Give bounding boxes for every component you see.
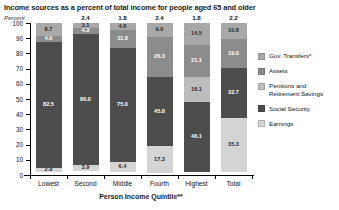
x-axis-tick: [178, 175, 179, 179]
bar-segment[interactable]: 21.1: [184, 45, 210, 77]
bar-stack[interactable]: 10.819.032.735.3: [221, 23, 247, 175]
bar-segment[interactable]: 17.3: [147, 146, 173, 172]
x-axis-tick: [67, 175, 68, 179]
bar-segment[interactable]: 2.9: [36, 168, 62, 172]
bar-segment[interactable]: 82.5: [36, 42, 62, 167]
bar-top-annotation: 1.8: [103, 14, 143, 21]
bar-segment[interactable]: 3.9: [73, 165, 99, 171]
y-axis-tick-label: 30: [1, 126, 23, 133]
y-axis-tick-label: 60: [1, 80, 23, 87]
bar-segment[interactable]: 9.0: [147, 23, 173, 37]
bar-top-annotation: 2.4: [66, 14, 106, 21]
bar-segment[interactable]: 75.0: [110, 48, 136, 162]
bar-segment[interactable]: 32.7: [221, 68, 247, 118]
legend-label: Social Security: [269, 105, 310, 113]
chart-title: Income sources as a percent of total inc…: [4, 3, 256, 12]
bar-top-annotation: 2.4: [140, 14, 180, 21]
bar-segment[interactable]: 19.0: [221, 39, 247, 68]
bar-segment[interactable]: 86.0: [73, 34, 99, 165]
legend-swatch-icon: [258, 120, 265, 127]
bar-segment[interactable]: 14.5: [184, 23, 210, 45]
legend-item[interactable]: Assets: [258, 67, 338, 75]
legend-item[interactable]: Earnings: [258, 120, 338, 128]
bar-stack[interactable]: 3.14.386.03.9: [73, 23, 99, 175]
legend-label: Pensions andRetirement Savings: [269, 82, 323, 97]
x-axis-tick: [104, 175, 105, 179]
y-axis-tick-label: 50: [1, 96, 23, 103]
bar-segment[interactable]: 26.3: [147, 37, 173, 77]
y-axis-tick-label: 90: [1, 35, 23, 42]
legend-item[interactable]: Social Security: [258, 105, 338, 113]
y-axis-tick-label: 40: [1, 111, 23, 118]
bar-segment[interactable]: 16.1: [184, 77, 210, 101]
legend-swatch-icon: [258, 83, 265, 90]
x-axis-tick: [252, 175, 253, 179]
y-axis-tick-label: 0: [1, 172, 23, 179]
bar-segment[interactable]: 46.1: [184, 102, 210, 172]
bar-stack[interactable]: 8.74.082.52.9: [36, 23, 62, 175]
y-axis-tick-label: 80: [1, 50, 23, 57]
chart-legend: Gov. Transfers*AssetsPensions andRetirem…: [258, 52, 338, 135]
y-axis-tick-label: 70: [1, 65, 23, 72]
legend-label: Gov. Transfers*: [269, 52, 312, 60]
x-axis-title: Person Income Quintile**: [30, 193, 252, 200]
x-axis-tick: [215, 175, 216, 179]
bar-segment[interactable]: 10.8: [221, 23, 247, 39]
bar-segment[interactable]: 11.8: [110, 30, 136, 48]
legend-label: Assets: [269, 67, 288, 75]
y-axis-tick-label: 100: [1, 20, 23, 27]
bar-top-annotation: 2.2: [214, 14, 254, 21]
legend-label: Earnings: [269, 120, 293, 128]
bar-segment[interactable]: 8.7: [36, 23, 62, 36]
bar-stack[interactable]: 4.611.875.06.4: [110, 23, 136, 175]
y-axis-tick-label: 10: [1, 156, 23, 163]
bar-top-annotation: 1.8: [177, 14, 217, 21]
x-axis-line: [24, 175, 254, 176]
chart-container: Income sources as a percent of total inc…: [0, 0, 339, 210]
y-axis-tick-label: 20: [1, 141, 23, 148]
x-axis-category-label: Total: [210, 180, 258, 187]
bar-stack[interactable]: 9.026.345.817.3: [147, 23, 173, 175]
bar-segment[interactable]: 45.8: [147, 77, 173, 147]
x-axis-tick: [30, 175, 31, 179]
bar-segment[interactable]: 6.4: [110, 162, 136, 172]
bar-stack[interactable]: 14.521.116.146.1: [184, 23, 210, 175]
bar-segment[interactable]: 35.3: [221, 118, 247, 172]
plot-area: 8.74.082.52.93.14.386.03.94.611.875.06.4…: [30, 23, 252, 175]
legend-swatch-icon: [258, 53, 265, 60]
legend-swatch-icon: [258, 105, 265, 112]
legend-swatch-icon: [258, 68, 265, 75]
legend-item[interactable]: Pensions andRetirement Savings: [258, 82, 338, 97]
legend-item[interactable]: Gov. Transfers*: [258, 52, 338, 60]
bar-segment[interactable]: 4.6: [110, 23, 136, 30]
x-axis-tick: [141, 175, 142, 179]
